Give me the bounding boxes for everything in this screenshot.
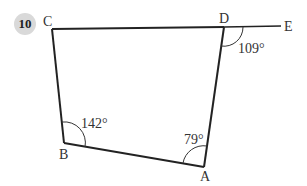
quadrilateral-diagram: C D E B A 142° 79° 109° — [0, 0, 307, 186]
vertex-label-a: A — [200, 169, 211, 184]
angle-arc-a — [183, 146, 207, 163]
angle-label-d: 109° — [238, 41, 265, 56]
angle-label-a: 79° — [184, 132, 204, 147]
edge-cb — [52, 29, 64, 143]
vertex-label-c: C — [43, 14, 52, 29]
vertex-label-d: D — [219, 11, 229, 26]
edge-de-extension — [224, 26, 281, 27]
angle-label-b: 142° — [81, 116, 108, 131]
vertex-label-b: B — [59, 147, 68, 162]
edge-cd — [52, 27, 224, 29]
vertex-label-e: E — [284, 19, 293, 34]
